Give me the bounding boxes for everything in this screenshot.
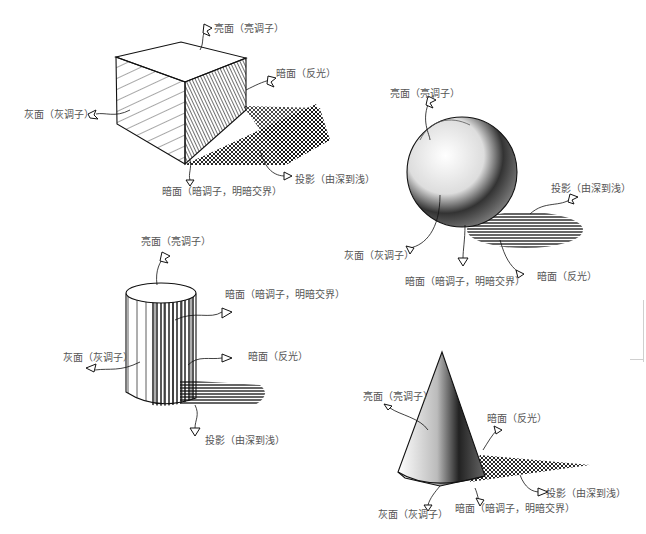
sketch-canvas: [0, 0, 646, 534]
cube-label-light: 亮面（亮调子）: [214, 23, 284, 35]
cylinder-label-shadow: 投影（由深到浅）: [205, 435, 285, 447]
cone-label-light: 亮面（亮调子）: [363, 391, 433, 403]
sphere-label-dark: 暗面（暗调子，明暗交界）: [405, 276, 525, 288]
page-edge-tick: [630, 359, 644, 360]
cone-drawing: [390, 352, 590, 505]
sphere-label-light: 亮面（亮调子）: [390, 88, 460, 100]
cube-label-reflected: 暗面（反光）: [276, 68, 336, 80]
cylinder-label-gray: 灰面（灰调子）: [63, 352, 133, 364]
cube-label-dark: 暗面（暗调子，明暗交界）: [162, 186, 282, 198]
cylinder-drawing: [95, 255, 265, 428]
cylinder-label-light: 亮面（亮调子）: [141, 236, 211, 248]
cone-label-shadow: 投影（由深到浅）: [546, 488, 626, 500]
cylinder-label-dark: 暗面（暗调子，明暗交界）: [225, 289, 345, 301]
sphere-label-reflected: 暗面（反光）: [537, 271, 597, 283]
cube-drawing: [96, 28, 330, 180]
cone-label-gray: 灰面（灰调子）: [378, 509, 448, 521]
sphere-label-gray: 灰面（灰调子）: [344, 250, 414, 262]
sphere-label-shadow: 投影（由深到浅）: [551, 183, 631, 195]
cone-label-dark: 暗面（暗调子，明暗交界）: [455, 503, 575, 515]
page-edge-line: [643, 300, 644, 362]
cone-label-reflected: 暗面（反光）: [487, 413, 547, 425]
cylinder-label-reflected: 暗面（反光）: [248, 351, 308, 363]
cube-label-gray: 灰面（灰调子）: [24, 109, 94, 121]
cube-label-shadow: 投影（由深到浅）: [295, 174, 375, 186]
